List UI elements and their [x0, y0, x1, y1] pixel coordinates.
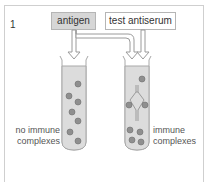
right-test-tube — [123, 56, 151, 150]
right-tube-result-label: immune complexes — [153, 125, 205, 147]
left-label-line2: complexes — [8, 136, 60, 147]
right-label-line1: immune — [153, 125, 205, 136]
right-label-line2: complexes — [153, 136, 205, 147]
arrows — [68, 30, 149, 59]
left-label-line1: no immune — [8, 125, 60, 136]
left-tube-result-label: no immune complexes — [8, 125, 60, 147]
diagram-graphics — [0, 0, 210, 182]
left-test-tube — [60, 56, 88, 150]
arrow-antiserum-to-right-tube — [137, 30, 149, 59]
arrow-antigen-to-right-tube — [76, 30, 138, 59]
